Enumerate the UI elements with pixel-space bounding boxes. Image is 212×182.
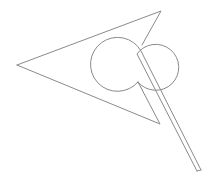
pennant-lower-edge	[17, 65, 160, 124]
pennant-hook-icon	[0, 0, 212, 182]
stick-end-cap	[197, 170, 201, 171]
hook-inner-line	[137, 44, 197, 171]
drawing-canvas	[0, 0, 212, 182]
hook-outer-line	[91, 37, 201, 170]
pennant-upper-edge	[17, 11, 161, 65]
